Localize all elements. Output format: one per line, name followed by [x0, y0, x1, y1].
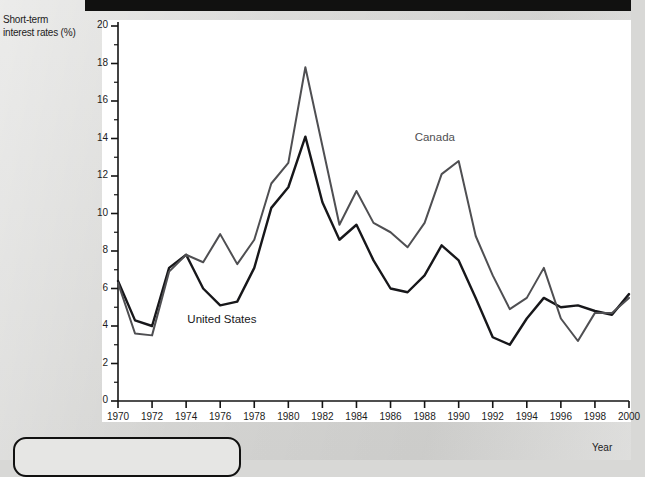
x-tick-label-1980: 1980: [271, 411, 305, 422]
x-tick-label-1982: 1982: [305, 411, 339, 422]
y-tick-label-0: 0: [86, 394, 108, 405]
y-tick-label-6: 6: [86, 282, 108, 293]
x-tick-label-1978: 1978: [237, 411, 271, 422]
x-tick-label-1986: 1986: [374, 411, 408, 422]
x-tick-label-1996: 1996: [544, 411, 578, 422]
x-tick-label-1984: 1984: [339, 411, 373, 422]
plot-area: [102, 20, 631, 422]
line-chart: [102, 20, 631, 422]
x-tick-label-1992: 1992: [476, 411, 510, 422]
y-tick-label-14: 14: [86, 132, 108, 143]
x-tick-label-1998: 1998: [578, 411, 612, 422]
x-tick-label-1994: 1994: [510, 411, 544, 422]
y-tick-label-20: 20: [86, 19, 108, 30]
y-tick-label-12: 12: [86, 169, 108, 180]
y-tick-label-8: 8: [86, 244, 108, 255]
y-axis-title-line-1: Short-term: [3, 13, 95, 26]
x-tick-label-2000: 2000: [612, 411, 645, 422]
y-tick-label-2: 2: [86, 357, 108, 368]
y-tick-label-10: 10: [86, 207, 108, 218]
y-tick-label-4: 4: [86, 319, 108, 330]
series-label-canada: Canada: [415, 131, 455, 143]
y-tick-label-16: 16: [86, 94, 108, 105]
y-tick-label-18: 18: [86, 57, 108, 68]
caption-box: [13, 437, 241, 477]
x-axis-title: Year: [592, 442, 612, 453]
x-tick-label-1976: 1976: [203, 411, 237, 422]
y-axis-title: Short-term interest rates (%): [3, 13, 95, 39]
x-tick-label-1970: 1970: [101, 411, 135, 422]
y-axis-title-line-2: interest rates (%): [3, 26, 95, 39]
x-tick-label-1974: 1974: [169, 411, 203, 422]
series-label-united-states: United States: [187, 313, 256, 325]
x-tick-label-1990: 1990: [442, 411, 476, 422]
page-top-black-bar: [85, 0, 631, 11]
x-tick-label-1988: 1988: [408, 411, 442, 422]
x-tick-label-1972: 1972: [135, 411, 169, 422]
